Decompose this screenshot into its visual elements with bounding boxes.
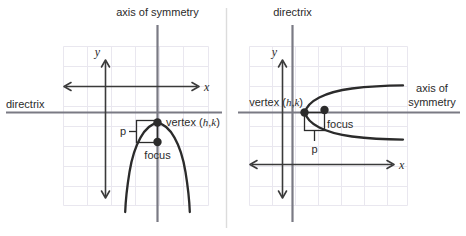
right-vertex-label: vertex (h,k) (249, 96, 303, 108)
right-x-axis-label: x (398, 158, 405, 172)
left-vertex-point (153, 118, 161, 126)
right-axis-of-symmetry-label-line2: symmetry (408, 96, 456, 108)
right-y-axis-label: y (271, 45, 278, 59)
right-p-label: p (311, 143, 317, 155)
right-focus-point (320, 106, 328, 114)
left-focus-point (153, 138, 161, 146)
right-panel: directrix vertex (h,k) focus p axis of s… (238, 6, 460, 222)
figure-canvas: axis of symmetry directrix vertex (h,k) … (0, 0, 466, 236)
left-vertex-label: vertex (h,k) (166, 116, 220, 128)
parabola-figure: axis of symmetry directrix vertex (h,k) … (0, 0, 466, 236)
left-p-label: p (120, 125, 126, 137)
right-directrix-label: directrix (273, 6, 312, 18)
right-focus-label: focus (327, 118, 354, 130)
left-x-axis-label: x (203, 80, 210, 94)
right-axis-of-symmetry-label-line1: axis of (416, 82, 449, 94)
left-y-axis-label: y (94, 45, 101, 59)
left-panel: axis of symmetry directrix vertex (h,k) … (6, 6, 222, 222)
left-directrix-label: directrix (6, 98, 45, 110)
left-axis-of-symmetry-label: axis of symmetry (116, 6, 199, 18)
left-focus-label: focus (144, 149, 171, 161)
right-vertex-point (300, 108, 308, 116)
